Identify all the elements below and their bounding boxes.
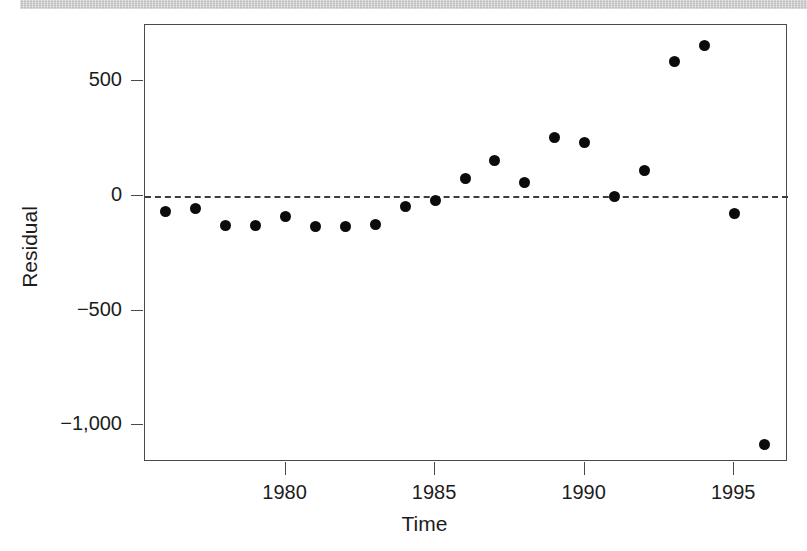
residual-scatter-figure: Residual Time 5000−500−1,000198019851990…: [0, 0, 807, 551]
zero-reference-line: [145, 196, 788, 198]
data-point: [250, 220, 261, 231]
data-point: [729, 208, 740, 219]
data-point: [609, 191, 620, 202]
data-point: [519, 177, 530, 188]
x-tick-mark: [285, 462, 286, 475]
data-point: [370, 219, 381, 230]
data-point: [340, 221, 351, 232]
y-tick-label: −500: [77, 299, 122, 319]
x-axis-title: Time: [0, 512, 807, 536]
data-point: [669, 56, 680, 67]
y-tick-mark: [131, 80, 143, 81]
data-point: [579, 137, 590, 148]
plot-area: [145, 25, 786, 460]
data-point: [190, 203, 201, 214]
y-axis-title: Residual: [18, 147, 42, 347]
scanned-page-edge-band: [20, 0, 807, 9]
y-tick-mark: [131, 195, 143, 196]
data-point: [430, 195, 441, 206]
x-tick-mark: [434, 462, 435, 475]
data-point: [549, 132, 560, 143]
data-point: [489, 155, 500, 166]
data-point: [639, 165, 650, 176]
data-point: [280, 211, 291, 222]
plot-panel: [144, 24, 787, 461]
data-point: [699, 40, 710, 51]
y-tick-mark: [131, 424, 143, 425]
data-point: [310, 221, 321, 232]
data-point: [160, 206, 171, 217]
x-tick-label: 1995: [673, 481, 793, 504]
y-tick-label: 500: [89, 69, 122, 89]
x-axis-title-text: Time: [402, 512, 448, 536]
data-point: [220, 220, 231, 231]
x-tick-mark: [733, 462, 734, 475]
y-tick-label: 0: [111, 184, 122, 204]
x-tick-label: 1990: [524, 481, 644, 504]
x-tick-label: 1980: [225, 481, 345, 504]
x-tick-mark: [584, 462, 585, 475]
x-tick-label: 1985: [374, 481, 494, 504]
y-tick-label: −1,000: [60, 413, 122, 433]
y-tick-mark: [131, 310, 143, 311]
data-point: [400, 201, 411, 212]
data-point: [460, 173, 471, 184]
data-point: [759, 439, 770, 450]
